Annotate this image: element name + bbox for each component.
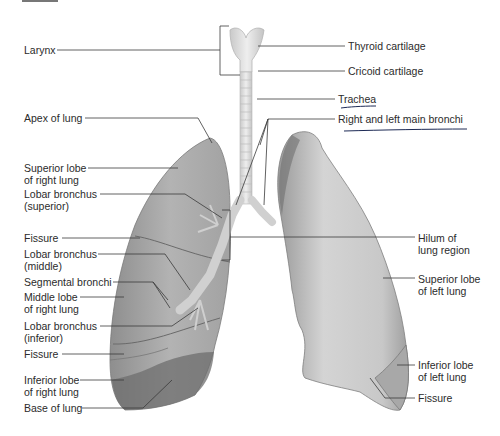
label-inferior-lobe-right: Inferior lobeof right lung bbox=[24, 374, 79, 398]
label-trachea: Trachea bbox=[338, 93, 376, 105]
lung-anatomy-diagram: Larynx Apex of lung Superior lobeof righ… bbox=[0, 0, 500, 436]
label-superior-lobe-left: Superior lobeof left lung bbox=[418, 273, 480, 297]
label-thyroid-cartilage: Thyroid cartilage bbox=[348, 40, 426, 52]
label-base-of-lung: Base of lung bbox=[24, 402, 82, 414]
label-fissure-right-upper: Fissure bbox=[24, 232, 58, 244]
label-lobar-bronchus-middle: Lobar bronchus(middle) bbox=[24, 248, 97, 272]
label-superior-lobe-right: Superior lobeof right lung bbox=[24, 162, 86, 186]
label-larynx: Larynx bbox=[24, 44, 56, 56]
label-main-bronchi: Right and left main bronchi bbox=[338, 113, 463, 125]
label-segmental-bronchi: Segmental bronchi bbox=[24, 276, 112, 288]
label-apex-of-lung: Apex of lung bbox=[24, 112, 82, 124]
label-cricoid-cartilage: Cricoid cartilage bbox=[348, 65, 423, 77]
left-lung bbox=[278, 132, 409, 411]
label-hilum: Hilum oflung region bbox=[418, 232, 470, 256]
label-fissure-right-lower: Fissure bbox=[24, 348, 58, 360]
label-middle-lobe-right: Middle lobeof right lung bbox=[24, 291, 79, 315]
label-lobar-bronchus-superior: Lobar bronchus(superior) bbox=[24, 188, 97, 212]
label-lobar-bronchus-inferior: Lobar bronchus(inferior) bbox=[24, 320, 97, 344]
label-inferior-lobe-left: Inferior lobeof left lung bbox=[418, 359, 473, 383]
label-fissure-left: Fissure bbox=[418, 392, 452, 404]
